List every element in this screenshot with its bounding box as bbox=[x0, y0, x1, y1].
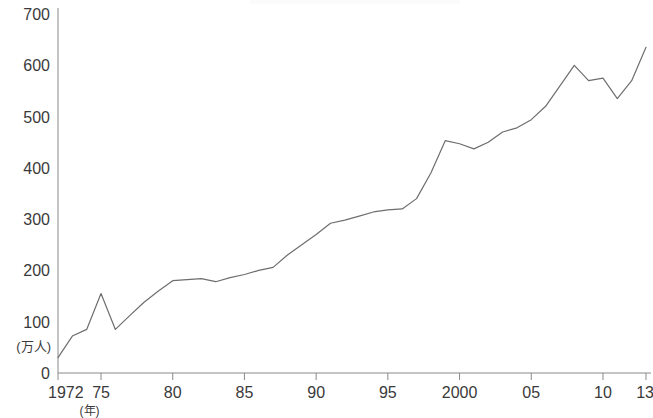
line-chart: 0100200300400500600700 19727580859095200… bbox=[0, 0, 653, 418]
y-tick-label: 0 bbox=[41, 365, 50, 382]
y-tick-label: 600 bbox=[23, 57, 50, 74]
y-tick-label: 100 bbox=[23, 314, 50, 331]
x-tick-label: 75 bbox=[92, 384, 110, 401]
y-axis-tick-labels: 0100200300400500600700 bbox=[23, 6, 50, 382]
y-tick-label: 500 bbox=[23, 109, 50, 126]
x-tick-label: 85 bbox=[236, 384, 254, 401]
x-axis-unit-label: (年) bbox=[80, 404, 100, 418]
x-tick-label: 13 bbox=[636, 384, 653, 401]
y-tick-label: 300 bbox=[23, 211, 50, 228]
y-tick-label: 400 bbox=[23, 160, 50, 177]
y-tick-label: 700 bbox=[23, 6, 50, 23]
chart-container: 0100200300400500600700 19727580859095200… bbox=[0, 0, 653, 418]
x-tick-label: 10 bbox=[594, 384, 612, 401]
x-axis-tick-labels: 197275808590952000051013 bbox=[48, 384, 653, 401]
y-axis-unit-label: (万人) bbox=[16, 339, 51, 354]
x-tick-label: 80 bbox=[164, 384, 182, 401]
axis-tick-marks bbox=[58, 373, 646, 380]
x-tick-label: 2000 bbox=[442, 384, 478, 401]
y-tick-label: 200 bbox=[23, 262, 50, 279]
x-tick-label: 1972 bbox=[48, 384, 84, 401]
x-tick-label: 95 bbox=[379, 384, 397, 401]
x-tick-label: 05 bbox=[522, 384, 540, 401]
data-series-line bbox=[58, 47, 646, 357]
x-tick-label: 90 bbox=[307, 384, 325, 401]
